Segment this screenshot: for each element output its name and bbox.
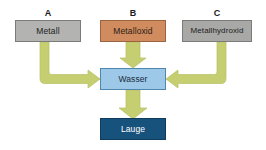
column-label-b: B: [100, 8, 166, 18]
node-wasser[interactable]: Wasser: [100, 68, 166, 90]
node-lauge[interactable]: Lauge: [100, 118, 166, 140]
arrow-metallhydroxid-to-wasser: [166, 42, 226, 88]
node-metalloxid[interactable]: Metalloxid: [100, 20, 166, 42]
column-label-a: A: [15, 8, 81, 18]
arrow-metall-to-wasser: [40, 42, 100, 88]
diagram-canvas: A B C Metall Metalloxid Metallhydroxid W…: [0, 0, 266, 150]
column-label-c: C: [182, 8, 252, 18]
arrow-wasser-to-lauge: [119, 90, 147, 119]
node-metall[interactable]: Metall: [15, 20, 81, 42]
arrow-metalloxid-to-wasser: [120, 42, 146, 68]
node-metallhydroxid[interactable]: Metallhydroxid: [182, 20, 252, 42]
